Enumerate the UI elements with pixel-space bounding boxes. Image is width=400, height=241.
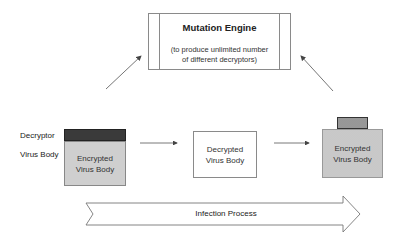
mutation-engine-title: Mutation Engine — [149, 22, 290, 33]
decryptor-block — [64, 129, 126, 141]
stage-2-line-1: Decrypted — [206, 144, 245, 155]
mutated-decryptor-block — [337, 117, 368, 129]
stage-1-line-1: Encrypted — [76, 153, 115, 164]
mutation-engine-box: Mutation Engine (to produce unlimited nu… — [148, 13, 291, 70]
stage-1-line-2: Virus Body — [76, 164, 115, 175]
stage-3-line-2: Virus Body — [333, 154, 372, 165]
decryptor-label: Decryptor — [20, 131, 55, 140]
stage-3-line-1: Encrypted — [333, 143, 372, 154]
stage-2-line-2: Virus Body — [206, 155, 245, 166]
virus-body-label: Virus Body — [20, 150, 59, 159]
polymorphic-virus-diagram: Mutation Engine (to produce unlimited nu… — [0, 0, 400, 241]
infection-process-label: Infection Process — [186, 209, 266, 218]
decrypted-virus-body: Decrypted Virus Body — [193, 131, 257, 178]
subtitle-line-1: (to produce unlimited number — [149, 45, 290, 55]
encrypted-virus-body-1: Encrypted Virus Body — [64, 141, 126, 186]
mutation-engine-subtitle: (to produce unlimited number of differen… — [149, 45, 290, 65]
arrow-from-engine — [301, 56, 333, 91]
arrow-to-engine — [106, 56, 141, 89]
encrypted-virus-body-2: Encrypted Virus Body — [322, 129, 383, 178]
subtitle-line-2: of different decryptors) — [149, 55, 290, 65]
